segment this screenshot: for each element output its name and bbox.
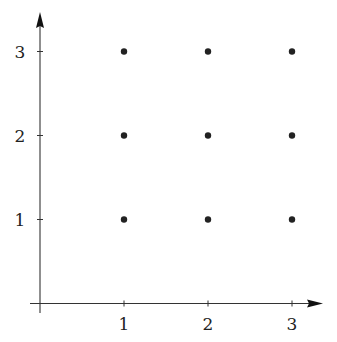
x-tick-label: 2	[203, 314, 214, 334]
data-point	[121, 132, 127, 138]
data-point	[205, 216, 211, 222]
data-point	[289, 216, 295, 222]
y-axis-arrow-icon	[36, 12, 44, 28]
data-point	[205, 48, 211, 54]
data-points	[121, 48, 295, 222]
data-point	[121, 216, 127, 222]
data-point	[121, 48, 127, 54]
y-tick-label: 3	[15, 42, 26, 62]
ticks: 123123	[15, 42, 298, 334]
x-axis-arrow-icon	[307, 300, 323, 308]
x-tick-label: 1	[119, 314, 130, 334]
y-tick-label: 1	[15, 210, 26, 230]
lattice-point-chart: 123123	[0, 0, 337, 342]
data-point	[289, 48, 295, 54]
data-point	[205, 132, 211, 138]
y-tick-label: 2	[15, 126, 26, 146]
axes	[30, 12, 323, 313]
data-point	[289, 132, 295, 138]
x-tick-label: 3	[287, 314, 298, 334]
